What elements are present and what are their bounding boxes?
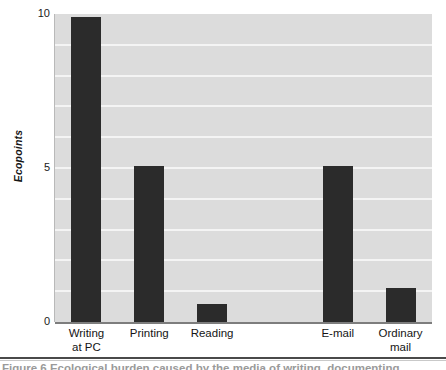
y-tick-label: 5 <box>24 162 50 173</box>
figure-caption: Figure 6 Ecological burden caused by the… <box>2 362 444 370</box>
y-tick-label: 10 <box>24 8 50 19</box>
bars-layer <box>55 14 432 322</box>
bar <box>197 304 227 322</box>
y-axis-tick-labels: 1050 <box>22 0 50 370</box>
x-tick-label: Ordinarymail <box>363 326 438 354</box>
caption-divider-rule <box>0 357 446 359</box>
x-tick-label-line: at PC <box>49 340 124 354</box>
x-tick-label-line: Writing <box>69 327 105 339</box>
x-axis-tick-labels: Writingat PCPrintingReadingE-mailOrdinar… <box>55 326 432 360</box>
x-axis-line <box>55 322 432 324</box>
bar <box>386 288 416 322</box>
x-tick-label-line: Printing <box>130 327 169 339</box>
plot-area <box>55 14 432 322</box>
bar <box>71 17 101 322</box>
x-tick-label-line: Reading <box>191 327 234 339</box>
bar <box>134 166 164 322</box>
x-tick-label: Reading <box>175 326 250 340</box>
x-tick-label-line: E-mail <box>321 327 354 339</box>
x-tick-label-line: mail <box>363 340 438 354</box>
bar <box>323 166 353 322</box>
caption-divider-rule-thin <box>0 360 446 361</box>
x-tick-label-line: Ordinary <box>379 327 423 339</box>
figure-bar-chart: Ecopoints 1050 Writingat PCPrintingReadi… <box>0 0 446 370</box>
y-tick-label: 0 <box>24 316 50 327</box>
